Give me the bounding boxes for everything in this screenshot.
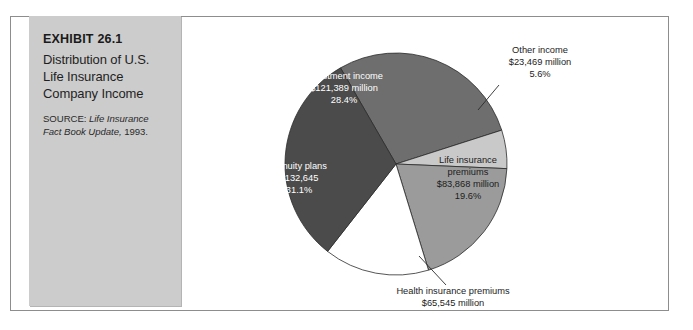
- slice-label-life-insurance-premiums-name2: premiums: [448, 167, 489, 177]
- slice-label-other-income-name: Other income: [512, 45, 568, 55]
- slice-label-other-income-percent: 5.6%: [529, 69, 550, 79]
- pie-chart: Investment income $121,389 million 28.4%…: [181, 17, 668, 310]
- exhibit-number: EXHIBIT 26.1: [43, 32, 168, 46]
- source-label: SOURCE:: [43, 113, 89, 124]
- slice-label-investment-income-value: $121,389 million: [310, 83, 378, 93]
- slice-label-health-insurance-premiums-name: Health insurance premiums: [396, 286, 510, 296]
- slice-label-health-insurance-premiums: Health insurance premiums $65,545 millio…: [396, 286, 510, 310]
- pie-chart-svg: Investment income $121,389 million 28.4%…: [181, 17, 670, 310]
- slice-label-other-income-value: $23,469 million: [509, 57, 572, 67]
- slice-label-annuity-plans-percent: 31.1%: [286, 185, 312, 195]
- slice-label-annuity-plans-name: Annuity plans: [271, 161, 327, 171]
- slice-label-life-insurance-premiums-value: $83,868 million: [437, 179, 500, 189]
- slice-label-investment-income-percent: 28.4%: [331, 95, 357, 105]
- slice-label-other-income: Other income $23,469 million 5.6%: [509, 45, 572, 79]
- slice-label-annuity-plans-value: $132,645: [280, 173, 319, 183]
- slice-label-life-insurance-premiums-name: Life insurance: [439, 155, 497, 165]
- source-year: 1993.: [122, 126, 148, 137]
- source-note: SOURCE: Life Insurance Fact Book Update,…: [43, 113, 168, 139]
- exhibit-frame: EXHIBIT 26.1 Distribution of U.S. Life I…: [10, 16, 669, 311]
- slice-label-life-insurance-premiums-percent: 19.6%: [455, 191, 481, 201]
- slice-label-investment-income-name: Investment income: [305, 71, 383, 81]
- caption-panel: EXHIBIT 26.1 Distribution of U.S. Life I…: [29, 16, 181, 306]
- slice-label-health-insurance-premiums-value: $65,545 million: [422, 298, 485, 308]
- exhibit-title: Distribution of U.S. Life Insurance Comp…: [43, 52, 168, 103]
